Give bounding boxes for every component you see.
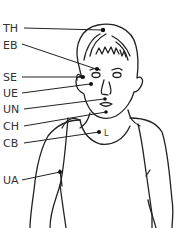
label-cb: CB: [3, 138, 18, 149]
leader-line-un: [24, 99, 104, 109]
label-se: SE: [3, 72, 17, 83]
label-eb: EB: [3, 40, 18, 51]
point-dot-ua: [58, 170, 62, 174]
point-dot-cb: [97, 130, 101, 134]
collarbone-mark: L: [104, 128, 108, 139]
point-dot-ue: [89, 82, 93, 86]
label-ue: UE: [3, 88, 18, 99]
label-th: TH: [3, 23, 18, 34]
label-ua: UA: [3, 175, 19, 186]
point-dot-un: [103, 97, 107, 101]
label-un: UN: [3, 104, 19, 115]
point-dot-se: [81, 75, 85, 79]
point-dot-th: [101, 28, 105, 32]
boy-figure-illustration: [0, 0, 188, 228]
leader-line-ua: [22, 172, 60, 180]
tapping-points-diagram: L TH EB SE UE UN CH CB UA: [0, 0, 188, 228]
leader-line-cb: [24, 132, 99, 143]
label-ch: CH: [3, 121, 19, 132]
point-dot-eb: [95, 67, 99, 71]
point-dot-ch: [104, 110, 108, 114]
